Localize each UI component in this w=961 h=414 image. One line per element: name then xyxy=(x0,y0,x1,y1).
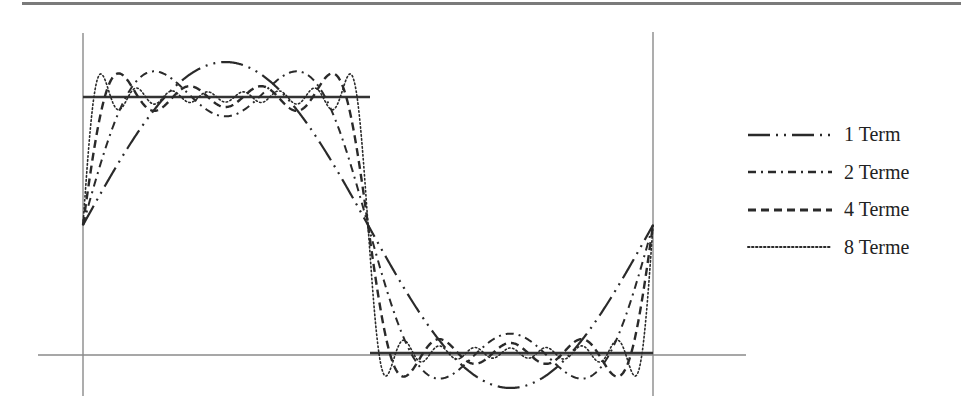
legend-item-1-term: 1 Term xyxy=(746,116,909,154)
legend-label: 4 Terme xyxy=(844,198,909,221)
legend-label: 8 Terme xyxy=(844,236,909,259)
fourier-curves xyxy=(83,62,653,388)
legend-item-2-terme: 2 Terme xyxy=(746,154,909,192)
legend-swatch-dashed-icon xyxy=(746,205,834,215)
legend-label: 2 Terme xyxy=(844,161,909,184)
legend-swatch-dash-dot-dot-icon xyxy=(746,130,834,140)
legend-item-4-terme: 4 Terme xyxy=(746,191,909,229)
legend-swatch-dotted-icon xyxy=(746,242,834,252)
legend-label: 1 Term xyxy=(844,123,901,146)
axes xyxy=(38,32,746,396)
legend-item-8-terme: 8 Terme xyxy=(746,229,909,267)
legend: 1 Term 2 Terme 4 Terme 8 Terme xyxy=(746,116,909,266)
legend-swatch-dash-dot-icon xyxy=(746,167,834,177)
curve-2-terms xyxy=(83,71,653,378)
